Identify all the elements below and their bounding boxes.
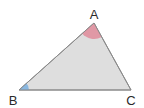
triangle-abc	[19, 23, 131, 90]
triangle-diagram	[0, 0, 144, 108]
vertex-label-c: C	[126, 94, 135, 107]
vertex-label-a: A	[90, 8, 99, 21]
vertex-label-b: B	[9, 94, 18, 107]
